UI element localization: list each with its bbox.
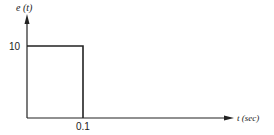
x-axis-label: t (sec) [237,113,259,123]
pulse-diagram: e (t) 10 0.1 t (sec) [0,0,274,135]
y-axis-arrow-icon [25,14,30,24]
pulse-signal [27,46,83,118]
x-tick-label: 0.1 [76,121,90,132]
x-axis-arrow-icon [224,116,234,121]
y-axis-label: e (t) [16,2,33,14]
y-tick-label: 10 [9,41,21,52]
